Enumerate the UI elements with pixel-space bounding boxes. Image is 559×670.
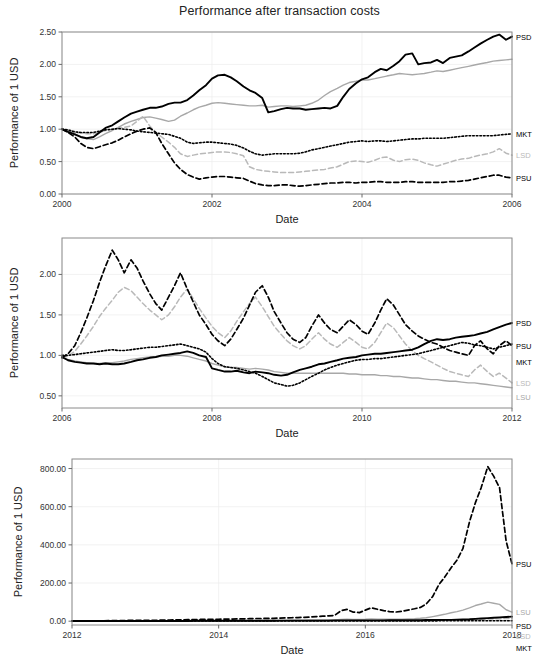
series-edge-label-mkt: MKT (516, 358, 532, 367)
chart-svg-panel-3: 0.00200.00400.00600.00800.00201220142016… (0, 445, 559, 670)
y-tick-label: 1.50 (39, 92, 56, 102)
x-axis-label: Date (275, 213, 298, 225)
series-edge-label-psd: PSD (516, 622, 532, 631)
series-line-psu (62, 128, 512, 186)
y-tick-label: 0.00 (39, 189, 56, 199)
series-edge-label-lsu: LSU (516, 608, 531, 617)
x-tick-label: 2006 (53, 413, 72, 423)
series-edge-label-psu: PSU (516, 174, 531, 183)
series-line-psu (72, 467, 512, 621)
y-tick-label: 800.00 (40, 464, 66, 474)
series-line-mkt (62, 342, 512, 386)
series-edge-label-lsd: LSD (516, 379, 531, 388)
series-line-lsu (62, 59, 512, 139)
y-tick-label: 0.50 (39, 157, 56, 167)
x-tick-label: 2012 (503, 413, 522, 423)
chart-panel-1: 0.000.501.001.502.002.502000200220042006… (0, 18, 559, 230)
gridlines (62, 32, 512, 194)
chart-svg-panel-1: 0.000.501.001.502.002.502000200220042006… (0, 18, 559, 230)
x-tick-label: 2004 (353, 199, 372, 209)
series-edge-label-lsd: LSD (516, 632, 531, 641)
y-tick-label: 2.00 (39, 59, 56, 69)
series-edge-label-psu: PSU (516, 342, 531, 351)
x-tick-label: 2006 (503, 199, 522, 209)
series-edge-label-psd: PSD (516, 33, 532, 42)
series-edge-label-mkt: MKT (516, 644, 532, 653)
y-tick-label: 600.00 (40, 502, 66, 512)
y-tick-label: 1.00 (39, 124, 56, 134)
series-line-mkt (62, 129, 512, 156)
series-edge-label-psd: PSD (516, 319, 532, 328)
series-line-lsd (62, 287, 512, 383)
series-edge-label-psu: PSU (516, 560, 531, 569)
x-tick-label: 2000 (53, 199, 72, 209)
y-axis-label: Performance of 1 USD (12, 487, 24, 598)
plot-frame (72, 459, 512, 625)
x-tick-label: 2016 (356, 630, 375, 640)
chart-svg-panel-2: 0.501.001.502.002006200820102012DatePerf… (0, 230, 559, 445)
chart-panel-2: 0.501.001.502.002006200820102012DatePerf… (0, 230, 559, 445)
y-tick-label: 1.50 (39, 310, 56, 320)
y-tick-label: 2.50 (39, 27, 56, 37)
series-edge-label-lsd: LSD (516, 151, 531, 160)
page-title: Performance after transaction costs (0, 4, 559, 18)
x-tick-label: 2010 (353, 413, 372, 423)
y-tick-label: 0.50 (39, 391, 56, 401)
series-edge-label-lsu: LSU (516, 393, 531, 402)
x-tick-label: 2002 (203, 199, 222, 209)
plot-frame (62, 32, 512, 194)
y-axis-label: Performance of 1 USD (8, 58, 20, 169)
figure-root: Performance after transaction costs 0.00… (0, 0, 559, 670)
series-edge-label-mkt: MKT (516, 130, 532, 139)
x-tick-label: 2008 (203, 413, 222, 423)
y-tick-label: 2.00 (39, 269, 56, 279)
y-tick-label: 200.00 (40, 578, 66, 588)
series-line-lsd (62, 116, 512, 172)
y-tick-label: 1.00 (39, 350, 56, 360)
chart-panel-3: 0.00200.00400.00600.00800.00201220142016… (0, 445, 559, 670)
x-axis-label: Date (275, 427, 298, 439)
y-tick-label: 0.00 (49, 616, 66, 626)
x-tick-label: 2012 (63, 630, 82, 640)
x-axis-label: Date (280, 644, 303, 656)
x-tick-label: 2014 (209, 630, 228, 640)
gridlines (72, 459, 512, 625)
y-axis-label: Performance of 1 USD (8, 268, 20, 379)
series-line-lsu (62, 355, 512, 387)
y-tick-label: 400.00 (40, 540, 66, 550)
